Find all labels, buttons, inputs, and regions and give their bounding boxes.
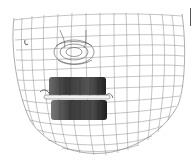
lower-lip <box>51 100 107 120</box>
upper-lip <box>49 77 106 96</box>
corner-mark <box>190 8 191 26</box>
face-wireframe-mesh <box>0 0 193 166</box>
cheek-crease <box>25 40 28 45</box>
lips <box>40 77 113 120</box>
lip-gap <box>44 95 110 99</box>
